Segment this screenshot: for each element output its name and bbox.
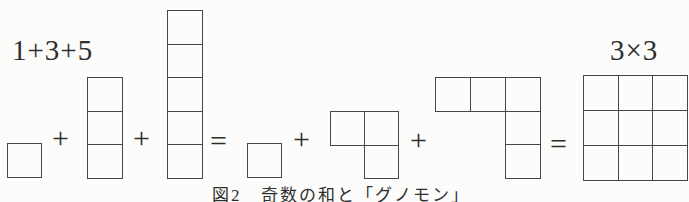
odd-sum-expression-label: 1+3+5 [12,36,93,65]
column-of-5-cell [167,144,203,179]
gnomon-of-5-cell [505,77,541,112]
gnomon-of-5-cell [470,77,506,112]
column-of-5-cell [167,77,203,112]
three-by-three-square-cell [652,145,688,181]
plus-2-operator: + [133,123,150,153]
column-of-5-cell [167,10,203,45]
three-by-three-square-cell [618,145,654,181]
three-by-three-square-cell [618,110,654,146]
plus-1-operator: + [52,123,69,153]
unit-square-1-cell [7,143,42,178]
unit-square-2-cell [247,143,282,178]
l-tromino-of-3-cell [364,111,399,146]
three-by-three-square-cell [583,110,619,146]
plus-3-operator: + [293,124,310,154]
l-tromino-of-3-cell [364,145,399,180]
gnomon-of-5-cell [505,144,541,179]
column-of-3-cell [87,77,123,112]
figure-caption: 図2 奇数の和と「グノモン」 [212,186,470,202]
figure-canvas: 1+3+5 3×3 図2 奇数の和と「グノモン」 ++=++= [0,0,689,202]
three-by-three-square-cell [652,110,688,146]
gnomon-of-5-cell [435,77,471,112]
three-by-three-square-cell [618,75,654,111]
column-of-3-cell [87,144,123,179]
equals-2-operator: = [550,129,567,159]
column-of-5-cell [167,44,203,79]
column-of-5-cell [167,111,203,146]
three-by-three-square-cell [583,145,619,181]
l-tromino-of-3-cell [330,111,365,146]
plus-4-operator: + [410,125,427,155]
square-product-label: 3×3 [610,36,658,65]
three-by-three-square-cell [652,75,688,111]
three-by-three-square-cell [583,75,619,111]
equals-1-operator: = [210,126,227,156]
gnomon-of-5-cell [505,111,541,146]
column-of-3-cell [87,111,123,146]
